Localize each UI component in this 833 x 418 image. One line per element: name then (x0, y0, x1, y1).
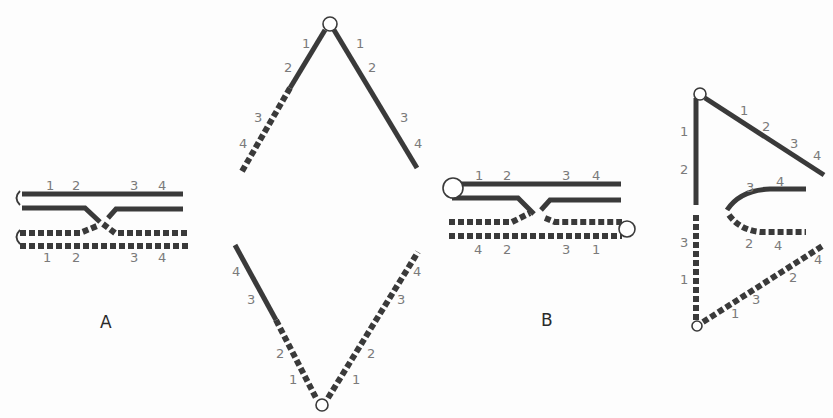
centromere-icon (443, 178, 463, 198)
locus-label: 4 (774, 238, 782, 253)
locus-label: 4 (158, 178, 166, 193)
panel-label-b: B (541, 310, 553, 330)
locus-label: 3 (400, 110, 408, 125)
locus-label: 3 (130, 178, 138, 193)
locus-label: 2 (745, 236, 753, 251)
locus-label: 4 (232, 264, 240, 279)
locus-label: 1 (302, 36, 310, 51)
locus-label: 3 (254, 110, 262, 125)
locus-label: 4 (239, 136, 247, 151)
locus-label: 2 (284, 60, 292, 75)
locus-label: 1 (43, 250, 51, 265)
locus-label: 1 (356, 36, 364, 51)
locus-label: 4 (814, 252, 822, 267)
locus-label: 3 (680, 235, 688, 250)
locus-label: 3 (130, 250, 138, 265)
panel-a-pairing: 1 2 3 4 1 2 3 4 A (17, 178, 189, 332)
locus-label: 2 (368, 60, 376, 75)
locus-label: 1 (592, 242, 600, 257)
locus-label: 3 (746, 180, 754, 195)
locus-label: 1 (289, 372, 297, 387)
panel-a-anaphase: 1 2 3 4 1 2 3 4 4 3 2 1 4 3 2 1 (232, 17, 422, 411)
locus-label: 1 (680, 272, 688, 287)
locus-label: 3 (562, 168, 570, 183)
centromere-icon (323, 17, 337, 31)
centromere-icon (316, 399, 328, 411)
locus-label: 1 (740, 103, 748, 118)
locus-label: 2 (503, 242, 511, 257)
locus-label: 2 (762, 119, 770, 134)
locus-label: 3 (752, 292, 760, 307)
locus-label: 1 (46, 178, 54, 193)
centromere-icon (619, 221, 635, 237)
locus-label: 2 (789, 270, 797, 285)
locus-label: 3 (247, 292, 255, 307)
panel-b-pairing: 1 2 3 4 4 2 3 1 B (443, 168, 635, 330)
locus-label: 4 (414, 136, 422, 151)
locus-label: 3 (397, 292, 405, 307)
chromosome-crossover-figure: 1 2 3 4 1 2 3 4 A 1 2 3 4 1 2 3 4 4 3 2 … (0, 0, 833, 418)
locus-label: 2 (503, 168, 511, 183)
locus-label: 4 (776, 174, 784, 189)
locus-label: 4 (813, 148, 821, 163)
locus-label: 1 (475, 168, 483, 183)
locus-label: 2 (367, 346, 375, 361)
locus-label: 3 (790, 136, 798, 151)
locus-label: 1 (352, 372, 360, 387)
locus-label: 3 (562, 242, 570, 257)
locus-label: 1 (680, 124, 688, 139)
locus-label: 4 (413, 264, 421, 279)
locus-label: 2 (72, 178, 80, 193)
locus-label: 2 (72, 250, 80, 265)
panel-b-anaphase: 1 2 3 1 1 2 3 4 3 4 2 4 1 3 2 4 (680, 88, 824, 331)
locus-label: 2 (680, 162, 688, 177)
centromere-icon (694, 88, 706, 100)
locus-label: 1 (731, 306, 739, 321)
locus-label: 4 (158, 250, 166, 265)
panel-label-a: A (100, 312, 112, 332)
locus-label: 4 (474, 242, 482, 257)
locus-label: 2 (276, 346, 284, 361)
centromere-icon (692, 321, 702, 331)
locus-label: 4 (592, 168, 600, 183)
